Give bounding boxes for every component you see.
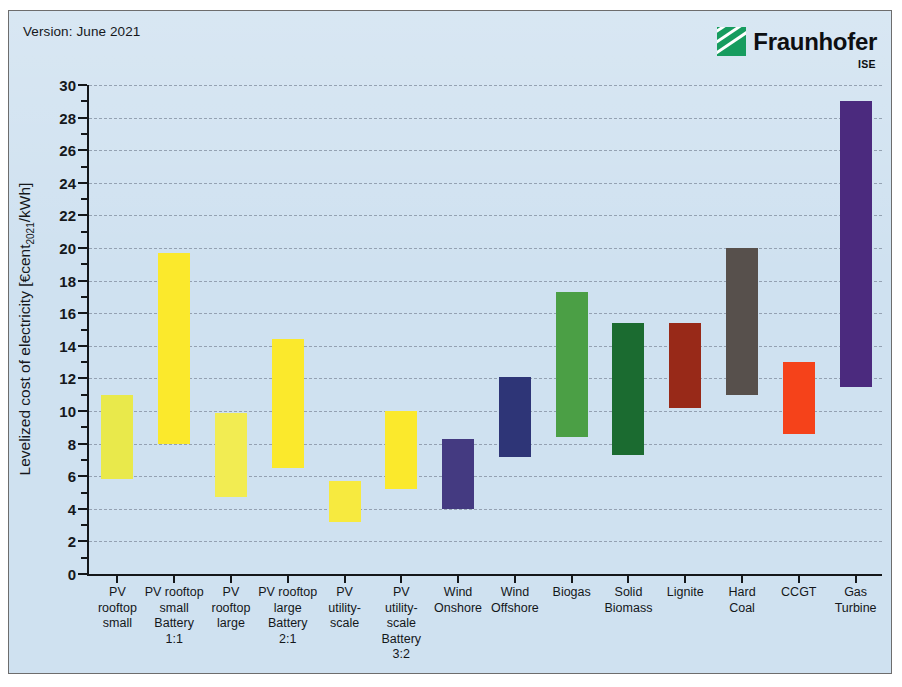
gridline [89,118,882,119]
y-tick-major [78,508,87,510]
bar-wind-offshore [499,377,531,457]
x-tick [116,574,118,583]
x-axis-label: Hard Coal [710,585,775,616]
gridline [89,476,882,477]
y-tick-major [78,182,87,184]
figure-canvas: Version: June 2021 Fraunhofer ISE Leveli… [9,11,891,673]
bar-ccgt [783,362,815,434]
x-axis-label: PV rooftop large Battery 2:1 [255,585,320,647]
x-axis-label: PV utility- scale Battery 3:2 [369,585,434,663]
x-tick [400,574,402,583]
gridline [89,150,882,151]
y-tick-minor [81,361,87,363]
x-axis-label: Lignite [653,585,718,601]
y-tick-minor [81,459,87,461]
y-tick-major [78,312,87,314]
x-tick [855,574,857,583]
y-tick-minor [81,231,87,233]
y-axis-title-subscript: 2021 [25,223,36,245]
y-axis-title-suffix: /kWh] [16,183,33,223]
x-axis-label: Wind Onshore [426,585,491,616]
bar-pv-utility-scale-battery-3-2 [385,411,417,489]
gridline [89,509,882,510]
y-tick-minor [81,263,87,265]
x-tick [741,574,743,583]
y-tick-label: 14 [59,337,76,354]
y-tick-minor [81,329,87,331]
plot-area: 024681012141618202224262830 PV rooftop s… [87,85,882,584]
x-tick [344,574,346,583]
version-note: Version: June 2021 [23,24,140,39]
gridline [89,541,882,542]
y-tick-label: 24 [59,174,76,191]
x-axis-label: PV rooftop small Battery 1:1 [142,585,207,647]
figure-panel: Version: June 2021 Fraunhofer ISE Leveli… [8,10,892,674]
logo-institute-label: ISE [858,58,876,70]
y-tick-label: 2 [68,533,76,550]
y-tick-label: 8 [68,435,76,452]
x-axis-label: CCGT [766,585,831,601]
y-axis-title-prefix: Levelized cost of electricity [€cent [16,245,33,476]
bar-pv-rooftop-large [215,413,247,498]
x-axis-label: Solid Biomass [596,585,661,616]
y-tick-minor [81,394,87,396]
y-tick-major [78,149,87,151]
x-tick [173,574,175,583]
fraunhofer-logo: Fraunhofer ISE [717,27,877,70]
x-tick [798,574,800,583]
bar-biogas [556,292,588,437]
x-axis-label: Biogas [539,585,604,601]
y-tick-major [78,443,87,445]
x-axis-label: Gas Turbine [823,585,888,616]
x-tick [684,574,686,583]
x-axis-label: PV rooftop small [85,585,150,632]
y-tick-label: 18 [59,272,76,289]
y-tick-label: 12 [59,370,76,387]
gridline [89,248,882,249]
y-tick-label: 0 [68,566,76,583]
y-tick-label: 4 [68,500,76,517]
bar-hard-coal [726,248,758,395]
fraunhofer-mark-icon [717,27,746,56]
y-tick-label: 22 [59,207,76,224]
y-tick-minor [81,296,87,298]
y-tick-minor [81,524,87,526]
y-tick-label: 26 [59,142,76,159]
x-tick [230,574,232,583]
y-tick-minor [81,100,87,102]
y-tick-major [78,117,87,119]
gridline [89,281,882,282]
y-axis-title: Levelized cost of electricity [€cent2021… [15,85,37,574]
y-tick-minor [81,557,87,559]
bar-lignite [669,323,701,408]
gridline [89,215,882,216]
y-tick-major [78,377,87,379]
gridline [89,411,882,412]
y-tick-minor [81,198,87,200]
y-tick-minor [81,426,87,428]
y-tick-major [78,475,87,477]
bar-pv-utility-scale [329,481,361,522]
x-axis-label: PV rooftop large [199,585,264,632]
y-tick-minor [81,133,87,135]
x-axis-label: Wind Offshore [483,585,548,616]
y-tick-label: 28 [59,109,76,126]
gridline [89,444,882,445]
y-tick-minor [81,166,87,168]
y-tick-label: 6 [68,468,76,485]
y-tick-major [78,410,87,412]
bar-wind-onshore [442,439,474,509]
bar-pv-rooftop-small [101,395,133,480]
gridline [89,378,882,379]
y-tick-major [78,214,87,216]
logo-row: Fraunhofer [717,27,877,56]
bar-pv-rooftop-large-battery-2-1 [272,339,304,468]
x-axis-label: PV utility- scale [312,585,377,632]
y-tick-label: 16 [59,305,76,322]
gridline [89,346,882,347]
x-tick [514,574,516,583]
y-tick-label: 20 [59,240,76,257]
y-tick-minor [81,492,87,494]
bar-solid-biomass [612,323,644,455]
x-tick [287,574,289,583]
